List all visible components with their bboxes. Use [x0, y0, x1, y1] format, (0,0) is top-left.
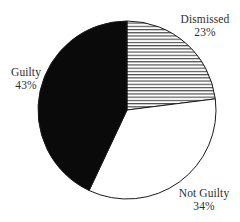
pie-label-dismissed: Dismissed 23%	[170, 13, 240, 39]
pie-label-not-guilty: Not Guilty 34%	[168, 187, 240, 213]
pie-label-guilty-name: Guilty	[2, 66, 50, 79]
pie-chart: Dismissed 23% Not Guilty 34% Guilty 43%	[0, 0, 240, 222]
pie-label-guilty: Guilty 43%	[2, 66, 50, 92]
pie-label-guilty-percent: 43%	[2, 79, 50, 92]
pie-label-dismissed-name: Dismissed	[170, 13, 240, 26]
pie-label-not-guilty-percent: 34%	[168, 200, 240, 213]
pie-label-not-guilty-name: Not Guilty	[168, 187, 240, 200]
pie-label-dismissed-percent: 23%	[170, 26, 240, 39]
